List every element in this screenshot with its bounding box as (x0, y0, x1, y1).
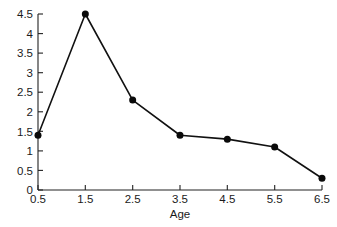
y-tick-label: 3.5 (17, 47, 33, 59)
data-point (319, 175, 326, 182)
data-point (177, 132, 184, 139)
x-tick-label: 6.5 (314, 193, 330, 205)
x-tick-label: 2.5 (125, 193, 141, 205)
y-tick-label: 3 (27, 67, 33, 79)
data-point (129, 97, 136, 104)
x-tick-label: 4.5 (219, 193, 235, 205)
data-point (82, 11, 89, 18)
y-tick-label: 1.5 (17, 126, 33, 138)
x-tick-label: 0.5 (30, 193, 46, 205)
chart-background (0, 0, 337, 227)
line-chart: 0 0.5 1 1.5 2 2.5 3 3.5 4 4.5 0.5 1.5 2.… (0, 0, 337, 227)
y-tick-label: 0.5 (17, 165, 33, 177)
y-tick-label: 4.5 (17, 8, 33, 20)
x-tick-label: 1.5 (77, 193, 93, 205)
data-point (224, 136, 231, 143)
data-point (35, 132, 42, 139)
x-axis-title: Age (170, 208, 190, 220)
y-tick-label: 2.5 (17, 86, 33, 98)
x-tick-label: 5.5 (267, 193, 283, 205)
chart-canvas: 0 0.5 1 1.5 2 2.5 3 3.5 4 4.5 0.5 1.5 2.… (0, 0, 337, 227)
y-tick-label: 1 (27, 145, 33, 157)
y-tick-label: 4 (27, 28, 34, 40)
x-tick-label: 3.5 (172, 193, 188, 205)
data-point (271, 143, 278, 150)
y-tick-label: 2 (27, 106, 33, 118)
